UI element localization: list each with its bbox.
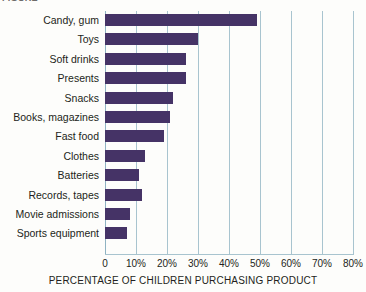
category-label: Movie admissions [16, 206, 99, 222]
bar-row: Clothes [105, 147, 353, 166]
tick-label-80: 80% [343, 258, 363, 270]
bar-row: Books, magazines [105, 108, 353, 127]
tick-label-0: 0 [102, 258, 108, 270]
x-axis-title: PERCENTAGE OF CHILDREN PURCHASING PRODUC… [0, 275, 366, 286]
bar [105, 111, 170, 123]
bar [105, 14, 257, 26]
bar [105, 92, 173, 104]
bar-row: Presents [105, 69, 353, 88]
bar [105, 227, 127, 239]
category-label: Fast food [55, 128, 99, 144]
category-label: Books, magazines [13, 109, 99, 125]
clipped-header-text: FIGURE [2, 0, 38, 1]
gridline-80 [353, 11, 354, 254]
bar [105, 150, 145, 162]
bar-row: Snacks [105, 89, 353, 108]
bar [105, 130, 164, 142]
plot-area: Candy, gumToysSoft drinksPresentsSnacksB… [105, 11, 353, 254]
category-label: Candy, gum [43, 12, 99, 28]
bar-row: Candy, gum [105, 11, 353, 30]
category-label: Snacks [65, 90, 99, 106]
category-label: Sports equipment [17, 225, 99, 241]
category-label: Records, tapes [28, 187, 99, 203]
category-label: Batteries [58, 167, 99, 183]
tick-label-10: 10% [126, 258, 146, 270]
bar [105, 53, 186, 65]
bar [105, 169, 139, 181]
category-label: Clothes [63, 148, 99, 164]
tick-label-20: 20% [157, 258, 177, 270]
category-label: Presents [58, 70, 99, 86]
bar-row: Movie admissions [105, 205, 353, 224]
bar [105, 208, 130, 220]
x-axis-line [105, 254, 354, 255]
tick-label-50: 50% [250, 258, 270, 270]
bar-row: Fast food [105, 127, 353, 146]
tick-label-30: 30% [188, 258, 208, 270]
bar [105, 72, 186, 84]
tick-label-60: 60% [281, 258, 301, 270]
tick-label-70: 70% [312, 258, 332, 270]
category-label: Soft drinks [49, 51, 99, 67]
bar-row: Sports equipment [105, 224, 353, 243]
bar-row: Toys [105, 30, 353, 49]
bar-row: Records, tapes [105, 186, 353, 205]
bar [105, 189, 142, 201]
bar-chart: FIGURE Candy, gumToysSoft drinksPresents… [0, 0, 366, 292]
category-label: Toys [77, 31, 99, 47]
bar-row: Batteries [105, 166, 353, 185]
bar-row: Soft drinks [105, 50, 353, 69]
tick-label-40: 40% [219, 258, 239, 270]
bar [105, 33, 198, 45]
